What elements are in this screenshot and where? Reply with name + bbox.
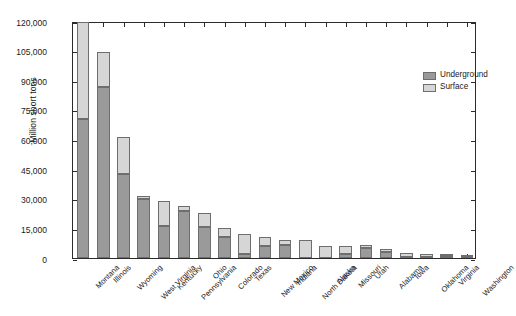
y-tick-label: 105,000: [0, 48, 47, 57]
bar-segment-underground[interactable]: [158, 226, 171, 258]
y-tick-mark-right: [471, 260, 475, 261]
bar-segment-surface[interactable]: [440, 254, 453, 256]
bar-segment-underground[interactable]: [77, 119, 90, 258]
x-tick-label: Wyoming: [135, 263, 164, 292]
legend-item[interactable]: Underground: [423, 70, 488, 81]
bar-segment-surface[interactable]: [319, 246, 332, 258]
bar-segment-underground[interactable]: [218, 237, 231, 258]
bar-segment-surface[interactable]: [400, 253, 413, 256]
bar-group[interactable]: [420, 21, 433, 258]
bar-segment-surface[interactable]: [137, 196, 150, 199]
bar-segment-underground[interactable]: [360, 248, 373, 258]
bar-segment-surface[interactable]: [218, 228, 231, 237]
y-tick-label: 75,000: [0, 107, 47, 116]
chart-legend: UndergroundSurface: [423, 70, 488, 94]
bar-segment-underground[interactable]: [178, 211, 191, 258]
bar-segment-underground[interactable]: [97, 87, 110, 258]
y-tick-label: 90,000: [0, 78, 47, 87]
legend-label: Underground: [440, 71, 488, 79]
bar-segment-underground[interactable]: [380, 252, 393, 258]
legend-label: Surface: [440, 83, 468, 91]
bar-group[interactable]: [380, 21, 393, 258]
bar-group[interactable]: [198, 21, 211, 258]
bar-segment-underground[interactable]: [198, 227, 211, 258]
bar-group[interactable]: [178, 21, 191, 258]
bar-segment-surface[interactable]: [97, 52, 110, 87]
bar-segment-surface[interactable]: [117, 137, 130, 174]
bar-group[interactable]: [117, 21, 130, 258]
bar-segment-underground[interactable]: [279, 245, 292, 258]
bar-group[interactable]: [440, 21, 453, 258]
bar-segment-underground[interactable]: [117, 174, 130, 258]
bar-segment-underground[interactable]: [259, 246, 272, 258]
bar-group[interactable]: [279, 21, 292, 258]
y-tick-label: 30,000: [0, 196, 47, 205]
bar-segment-surface[interactable]: [238, 234, 251, 254]
bar-segment-underground[interactable]: [339, 254, 352, 258]
bar-segment-surface[interactable]: [77, 22, 90, 119]
bar-group[interactable]: [259, 21, 272, 258]
y-tick-label: 0: [0, 256, 47, 265]
legend-item[interactable]: Surface: [423, 82, 488, 93]
bar-group[interactable]: [77, 21, 90, 258]
bar-group[interactable]: [238, 21, 251, 258]
plot-area: 015,00030,00045,00060,00075,00090,000105…: [72, 22, 476, 259]
bar-segment-surface[interactable]: [158, 201, 171, 226]
bar-group[interactable]: [319, 21, 332, 258]
bar-segment-underground[interactable]: [440, 256, 453, 258]
bar-segment-surface[interactable]: [360, 245, 373, 248]
bar-segment-surface[interactable]: [259, 237, 272, 245]
y-tick-label: 15,000: [0, 226, 47, 235]
bar-group[interactable]: [158, 21, 171, 258]
bar-segment-surface[interactable]: [420, 254, 433, 257]
bar-group[interactable]: [97, 21, 110, 258]
bar-group[interactable]: [299, 21, 312, 258]
bar-segment-underground[interactable]: [238, 254, 251, 258]
bar-group[interactable]: [137, 21, 150, 258]
x-tick-label: Washington: [481, 263, 516, 298]
bar-segment-surface[interactable]: [178, 206, 191, 211]
y-tick-label: 120,000: [0, 19, 47, 28]
bar-segment-surface[interactable]: [299, 240, 312, 258]
bar-group[interactable]: [360, 21, 373, 258]
y-tick-label: 60,000: [0, 137, 47, 146]
y-tick-label: 45,000: [0, 167, 47, 176]
bar-group[interactable]: [339, 21, 352, 258]
bar-segment-surface[interactable]: [279, 240, 292, 246]
bar-group[interactable]: [461, 21, 474, 258]
bar-group[interactable]: [218, 21, 231, 258]
bar-segment-surface[interactable]: [339, 246, 352, 255]
bar-segment-surface[interactable]: [461, 255, 474, 257]
legend-swatch: [423, 84, 436, 92]
bar-segment-surface[interactable]: [198, 213, 211, 227]
bar-segment-underground[interactable]: [137, 199, 150, 258]
legend-swatch: [423, 72, 436, 80]
bar-segment-surface[interactable]: [380, 249, 393, 253]
bar-group[interactable]: [400, 21, 413, 258]
y-tick-mark: [73, 260, 77, 261]
